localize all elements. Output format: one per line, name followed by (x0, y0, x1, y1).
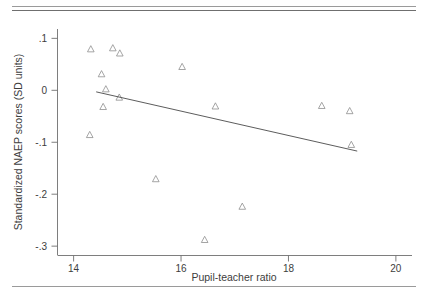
data-point (86, 131, 93, 137)
y-axis-title: Standardized NAEP scores (SD units) (12, 54, 24, 231)
data-point (348, 141, 355, 147)
x-tick-label-1: 16 (175, 263, 187, 274)
data-point (152, 176, 159, 182)
x-tick-label-3: 20 (390, 263, 402, 274)
data-point (179, 63, 186, 69)
data-point (87, 46, 94, 52)
data-point (116, 50, 123, 56)
data-point (98, 71, 105, 77)
data-point (318, 102, 325, 108)
y-tick-label-2: -.1 (35, 137, 47, 148)
data-point (201, 236, 208, 242)
data-point (100, 103, 107, 109)
chart-canvas: .10-.1-.2-.3 14161820 Pupil-teacher rati… (0, 0, 428, 298)
data-points (86, 45, 354, 243)
y-tick-label-1: 0 (41, 85, 47, 96)
data-point (239, 203, 246, 209)
y-tick-label-3: -.2 (35, 189, 47, 200)
data-point (346, 107, 353, 113)
y-axis: .10-.1-.2-.3 (35, 29, 57, 255)
y-tick-label-4: -.3 (35, 241, 47, 252)
figure-panel: .10-.1-.2-.3 14161820 Pupil-teacher rati… (0, 0, 428, 298)
regression-line (96, 92, 357, 151)
x-tick-label-2: 18 (283, 263, 295, 274)
y-tick-label-0: .1 (39, 33, 48, 44)
data-point (110, 45, 117, 51)
data-point (103, 86, 110, 92)
x-tick-label-0: 14 (68, 263, 80, 274)
scatter-plot: .10-.1-.2-.3 14161820 Pupil-teacher rati… (0, 0, 428, 298)
x-axis-title: Pupil-teacher ratio (191, 271, 276, 283)
regression-fit-line (96, 92, 357, 151)
data-point (212, 103, 219, 109)
